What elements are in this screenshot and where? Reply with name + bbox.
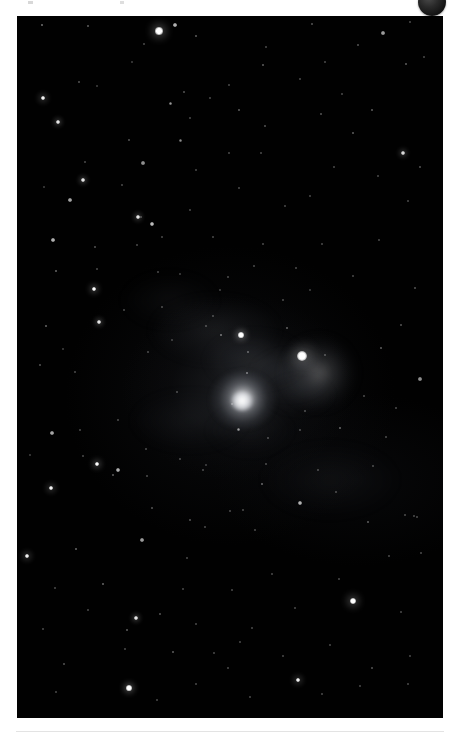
chrome-marker-center	[120, 1, 124, 4]
star	[309, 195, 311, 197]
star	[254, 529, 256, 531]
star	[189, 209, 191, 211]
star	[238, 187, 240, 189]
star	[282, 655, 284, 657]
star	[253, 265, 255, 267]
star	[304, 410, 306, 412]
star	[363, 395, 365, 397]
star	[156, 699, 158, 701]
star	[238, 332, 243, 337]
star	[43, 186, 45, 188]
star	[87, 609, 89, 611]
star	[401, 151, 405, 155]
star	[209, 97, 211, 99]
star	[338, 578, 340, 580]
star	[121, 184, 123, 186]
star	[161, 236, 163, 238]
star	[145, 448, 147, 450]
star	[143, 43, 145, 45]
star	[140, 538, 143, 541]
star	[179, 139, 182, 142]
star	[150, 222, 154, 226]
star	[161, 306, 163, 308]
star	[227, 667, 229, 669]
star	[126, 685, 131, 690]
star	[416, 516, 418, 518]
star	[212, 236, 214, 238]
star	[173, 23, 177, 27]
star	[335, 491, 337, 493]
star	[68, 198, 72, 202]
star	[182, 588, 184, 590]
star	[227, 276, 229, 278]
star	[204, 526, 206, 528]
star	[54, 587, 56, 589]
star	[229, 510, 231, 512]
star	[413, 515, 415, 517]
star	[155, 27, 162, 34]
page-root: Deep sky astrophotograph: dense star fie…	[0, 0, 460, 736]
star	[262, 243, 264, 245]
star	[219, 289, 221, 291]
star	[231, 403, 233, 405]
star	[117, 419, 119, 421]
star	[309, 289, 311, 291]
star	[79, 429, 81, 431]
star	[265, 46, 267, 48]
star	[333, 166, 335, 168]
star	[146, 475, 148, 477]
bottom-chrome-bar	[0, 718, 460, 736]
star	[418, 377, 421, 380]
star	[251, 627, 253, 629]
star	[96, 85, 98, 87]
star	[96, 268, 98, 270]
star	[82, 455, 84, 457]
star	[51, 238, 55, 242]
section-divider	[16, 731, 444, 732]
star	[242, 509, 244, 511]
star	[321, 693, 323, 695]
star	[237, 428, 240, 431]
star	[372, 465, 374, 467]
star	[62, 348, 64, 350]
star	[295, 267, 297, 269]
star	[321, 243, 323, 245]
star	[131, 61, 133, 63]
star	[123, 309, 125, 311]
star	[294, 607, 296, 609]
star	[56, 120, 60, 124]
sky-background	[17, 16, 443, 718]
star	[249, 696, 251, 698]
star	[282, 299, 284, 301]
star	[329, 644, 331, 646]
star	[29, 454, 31, 456]
star	[299, 429, 301, 431]
star	[140, 216, 142, 218]
star	[423, 56, 425, 58]
star	[265, 463, 267, 465]
star	[284, 205, 286, 207]
star	[378, 239, 380, 241]
star	[186, 557, 188, 559]
star	[141, 161, 144, 164]
star	[324, 61, 326, 63]
star	[420, 552, 422, 554]
star	[212, 315, 214, 317]
star	[395, 407, 397, 409]
star	[169, 102, 172, 105]
galaxy-core	[231, 391, 253, 411]
star	[231, 589, 233, 591]
star	[213, 652, 215, 654]
star	[84, 161, 86, 163]
star	[409, 655, 411, 657]
star	[404, 514, 406, 516]
star	[189, 117, 191, 119]
star	[359, 685, 361, 687]
star	[124, 648, 126, 650]
star	[400, 611, 402, 613]
star	[55, 691, 57, 693]
star	[239, 641, 241, 643]
astronomy-photograph[interactable]	[17, 16, 443, 718]
star	[407, 200, 409, 202]
star	[205, 464, 207, 466]
